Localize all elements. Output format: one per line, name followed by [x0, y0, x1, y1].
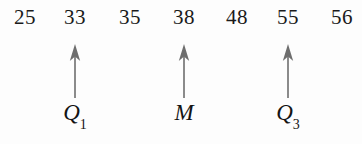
- data-value: 35: [110, 4, 150, 30]
- data-value: 25: [5, 4, 45, 30]
- median-marker: M: [154, 42, 214, 142]
- up-arrow-icon: [258, 42, 318, 100]
- up-arrow-icon: [45, 42, 105, 100]
- data-value: 33: [55, 4, 95, 30]
- data-value: 38: [164, 4, 204, 30]
- up-arrow-icon: [154, 42, 214, 100]
- quartile-1-label-main: Q: [63, 100, 80, 125]
- quartile-3-marker: Q3: [258, 42, 318, 142]
- quartile-3-label: Q3: [258, 98, 318, 129]
- quartile-1-label: Q1: [45, 98, 105, 129]
- data-value: 55: [268, 4, 308, 30]
- median-label: M: [154, 98, 214, 129]
- quartile-3-label-main: Q: [276, 100, 293, 125]
- quartile-1-label-sub: 1: [80, 117, 87, 132]
- quartile-3-label-sub: 3: [293, 117, 300, 132]
- quartile-1-marker: Q1: [45, 42, 105, 142]
- data-value-row: 25 33 35 38 48 55 56: [0, 0, 362, 38]
- data-value: 56: [322, 4, 362, 30]
- median-label-main: M: [174, 100, 193, 125]
- statistics-diagram: 25 33 35 38 48 55 56 Q1 M: [0, 0, 362, 144]
- data-value: 48: [217, 4, 257, 30]
